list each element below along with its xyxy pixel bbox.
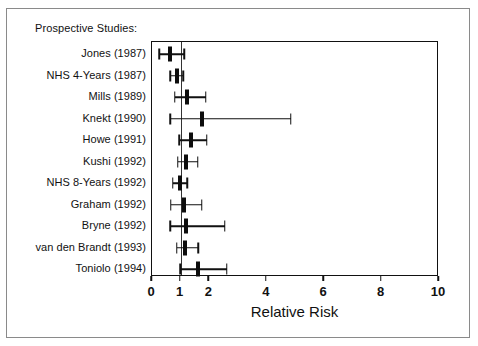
study-row (152, 262, 437, 276)
study-row (152, 90, 437, 104)
point-estimate-marker (175, 68, 179, 83)
study-label: Jones (1987) (81, 47, 146, 59)
point-estimate-marker (183, 240, 187, 255)
study-row (152, 112, 437, 126)
study-label: NHS 8-Years (1992) (46, 176, 146, 188)
point-estimate-marker (185, 90, 189, 105)
x-tick-mark (265, 276, 267, 281)
ci-lower-cap (169, 70, 171, 81)
ci-upper-cap (184, 49, 186, 60)
ci-upper-cap (224, 221, 226, 232)
x-tick-label: 1 (176, 284, 183, 299)
ci-upper-cap (205, 92, 207, 103)
study-label: Toniolo (1994) (76, 262, 146, 274)
study-label: NHS 4-Years (1987) (46, 69, 146, 81)
ci-lower-cap (169, 221, 171, 232)
study-label: Howe (1991) (82, 133, 146, 145)
ci-lower-cap (179, 264, 181, 275)
x-tick-label: 4 (262, 284, 269, 299)
ci-upper-cap (290, 113, 292, 124)
point-estimate-marker (178, 176, 182, 191)
x-tick-label: 0 (147, 284, 154, 299)
x-tick-mark (437, 276, 439, 281)
study-label: Graham (1992) (71, 198, 146, 210)
study-row (152, 47, 437, 61)
ci-upper-cap (226, 264, 228, 275)
ci-upper-cap (186, 178, 188, 189)
study-row (152, 69, 437, 83)
confidence-interval-line (170, 225, 225, 227)
ci-lower-cap (174, 92, 176, 103)
study-row (152, 176, 437, 190)
point-estimate-marker (182, 197, 186, 212)
page-title: Prospective Studies: (35, 22, 137, 34)
x-tick-label: 6 (320, 284, 327, 299)
ci-upper-cap (206, 135, 208, 146)
study-row (152, 155, 437, 169)
ci-lower-cap (170, 199, 172, 210)
x-tick-mark (208, 276, 210, 281)
point-estimate-marker (189, 133, 193, 148)
study-label: Kushi (1992) (83, 155, 146, 167)
confidence-interval-line (180, 268, 227, 270)
x-tick-mark (179, 276, 181, 281)
forest-plot-figure: Prospective Studies: Jones (1987)NHS 4-Y… (0, 0, 478, 346)
ci-upper-cap (201, 199, 203, 210)
ci-upper-cap (197, 156, 199, 167)
study-row (152, 198, 437, 212)
x-tick-label: 10 (431, 284, 445, 299)
x-axis-label: Relative Risk (151, 303, 438, 320)
ci-lower-cap (172, 178, 174, 189)
plot-area (151, 41, 438, 276)
x-tick-label: 2 (205, 284, 212, 299)
x-tick-mark (150, 276, 152, 281)
confidence-interval-line (177, 247, 198, 249)
study-row (152, 219, 437, 233)
confidence-interval-line (175, 96, 206, 98)
x-tick-mark (322, 276, 324, 281)
point-estimate-marker (200, 111, 204, 126)
x-tick-mark (380, 276, 382, 281)
ci-lower-cap (179, 135, 181, 146)
study-label: Mills (1989) (89, 90, 146, 102)
ci-lower-cap (169, 113, 171, 124)
point-estimate-marker (184, 219, 188, 234)
study-row (152, 133, 437, 147)
ci-lower-cap (176, 242, 178, 253)
point-estimate-marker (196, 262, 200, 277)
ci-lower-cap (158, 49, 160, 60)
study-label: Knekt (1990) (82, 112, 146, 124)
study-label: van den Brandt (1993) (35, 241, 146, 253)
point-estimate-marker (168, 47, 172, 62)
ci-upper-cap (183, 70, 185, 81)
point-estimate-marker (184, 154, 188, 169)
ci-lower-cap (177, 156, 179, 167)
ci-upper-cap (197, 242, 199, 253)
confidence-interval-line (178, 161, 198, 163)
x-tick-label: 8 (377, 284, 384, 299)
study-label: Bryne (1992) (82, 219, 146, 231)
study-row (152, 241, 437, 255)
confidence-interval-line (170, 118, 291, 120)
